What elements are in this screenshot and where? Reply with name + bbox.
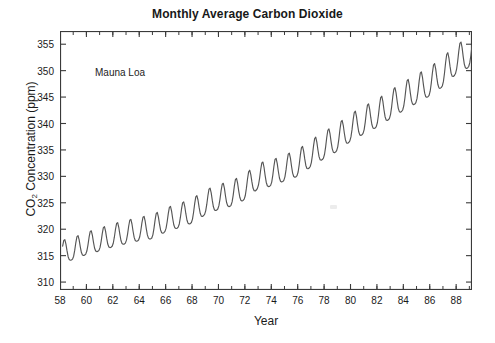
plot-area: Mauna Loa: [60, 31, 472, 290]
y-axis-title-main: CO: [24, 199, 38, 217]
x-axis-tick-labels: 58606264666870727476788082848688: [60, 295, 472, 311]
y-axis-title-rest: Concentration (ppm): [24, 81, 38, 194]
x-tick-label: 88: [436, 295, 476, 306]
x-axis-title: Year: [60, 314, 472, 328]
y-tick-label: 310: [4, 277, 54, 288]
co2-chart-figure: Monthly Average Carbon Dioxide 310315320…: [0, 0, 495, 343]
annotation-mauna-loa: Mauna Loa: [95, 67, 145, 78]
y-axis-title-subscript: 2: [30, 194, 39, 198]
page-title: Monthly Average Carbon Dioxide: [0, 7, 495, 21]
y-axis-title: CO2 Concentration (ppm): [24, 39, 38, 259]
